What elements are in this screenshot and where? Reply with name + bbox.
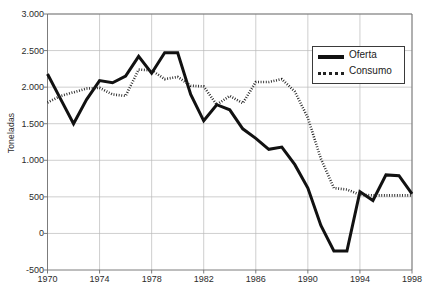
legend-swatch-solid-line [318,55,344,59]
legend-label-consumo: Consumo [349,65,392,76]
series-line-consumo [48,70,413,196]
chart-figure: Toneladas 3.0002.5002.0001.5001.0005000-… [0,0,439,295]
legend-item-oferta: Oferta [318,50,403,64]
plot-area [0,0,439,295]
legend-item-consumo: Consumo [318,66,403,80]
chart-legend: Oferta Consumo [312,46,405,84]
legend-label-oferta: Oferta [349,49,377,60]
legend-swatch-dotted-line [318,72,344,75]
